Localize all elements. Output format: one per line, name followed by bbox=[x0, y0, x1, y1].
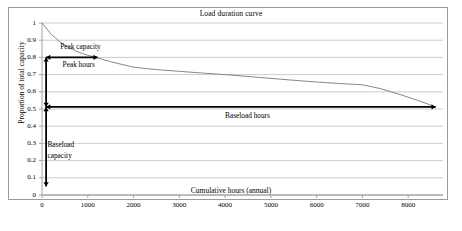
x-tick-label: 3000 bbox=[159, 201, 199, 209]
y-tick-label: 0.4 bbox=[10, 122, 36, 130]
chart-figure: Load duration curve Proportion of total … bbox=[0, 0, 462, 231]
y-tick-label: 0.3 bbox=[10, 139, 36, 147]
x-tick-label: 4000 bbox=[205, 201, 245, 209]
chart-title: Load duration curve bbox=[0, 9, 462, 18]
x-tick-label: 5000 bbox=[251, 201, 291, 209]
x-tick-label: 7000 bbox=[342, 201, 382, 209]
y-tick-label: 0.8 bbox=[10, 53, 36, 61]
annotation-line: Baseload bbox=[47, 140, 74, 149]
x-tick-label: 2000 bbox=[114, 201, 154, 209]
plot-area: 00.10.20.30.40.50.60.70.80.91 0100020003… bbox=[42, 23, 443, 195]
annotation-baseload-capacity: Baseloadcapacity bbox=[47, 140, 74, 160]
y-tick-label: 0.9 bbox=[10, 36, 36, 44]
y-tick-label: 0.7 bbox=[10, 70, 36, 78]
annotation-peak-hours: Peak hours bbox=[63, 60, 95, 69]
load-duration-curve bbox=[42, 23, 436, 107]
y-tick-label: 0.5 bbox=[10, 105, 36, 113]
y-tick-label: 0.6 bbox=[10, 87, 36, 95]
x-tick-label: 8000 bbox=[388, 201, 428, 209]
chart-canvas bbox=[42, 23, 443, 195]
y-tick-label: 0.2 bbox=[10, 156, 36, 164]
arrow-head bbox=[44, 182, 49, 186]
x-tick-label: 1000 bbox=[68, 201, 108, 209]
annotation-peak-capacity: Peak capacity bbox=[60, 42, 100, 51]
y-tick-label: 0.1 bbox=[10, 173, 36, 181]
annotation-baseload-hours: Baseload hours bbox=[225, 111, 270, 120]
y-tick-label: 1 bbox=[10, 19, 36, 27]
x-tick-label: 0 bbox=[22, 201, 62, 209]
annotation-line: capacity bbox=[47, 151, 74, 160]
y-tick-label: 0 bbox=[10, 191, 36, 199]
x-tick-label: 6000 bbox=[297, 201, 337, 209]
